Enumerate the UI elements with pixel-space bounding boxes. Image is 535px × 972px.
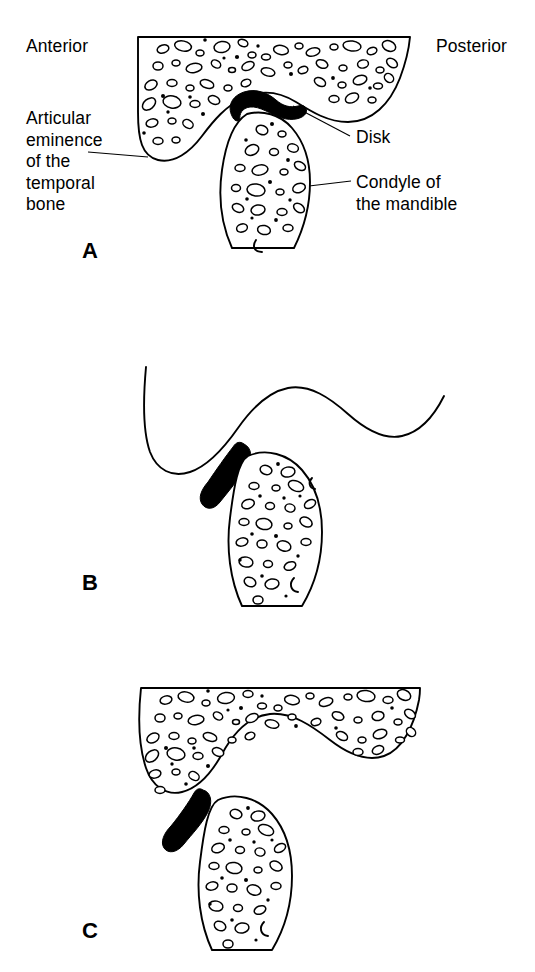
panel-letter-b: B — [82, 570, 98, 596]
panel-c-drawing — [139, 688, 420, 950]
panel-letter-a: A — [82, 238, 98, 264]
panel-letter-c: C — [82, 918, 98, 944]
temporal-bone-b — [144, 367, 444, 474]
label-condyle-of-mandible: Condyle of the mandible — [356, 172, 457, 215]
condyle-leader-line — [309, 181, 351, 186]
label-anterior: Anterior — [26, 36, 88, 58]
tmj-figure: Anterior Posterior Articular eminence of… — [0, 0, 535, 972]
panel-b-drawing — [144, 367, 444, 606]
label-posterior: Posterior — [436, 36, 507, 58]
label-disk: Disk — [356, 127, 390, 149]
label-articular-eminence: Articular eminence of the temporal bone — [26, 108, 103, 216]
temporal-bone-c — [139, 688, 420, 793]
